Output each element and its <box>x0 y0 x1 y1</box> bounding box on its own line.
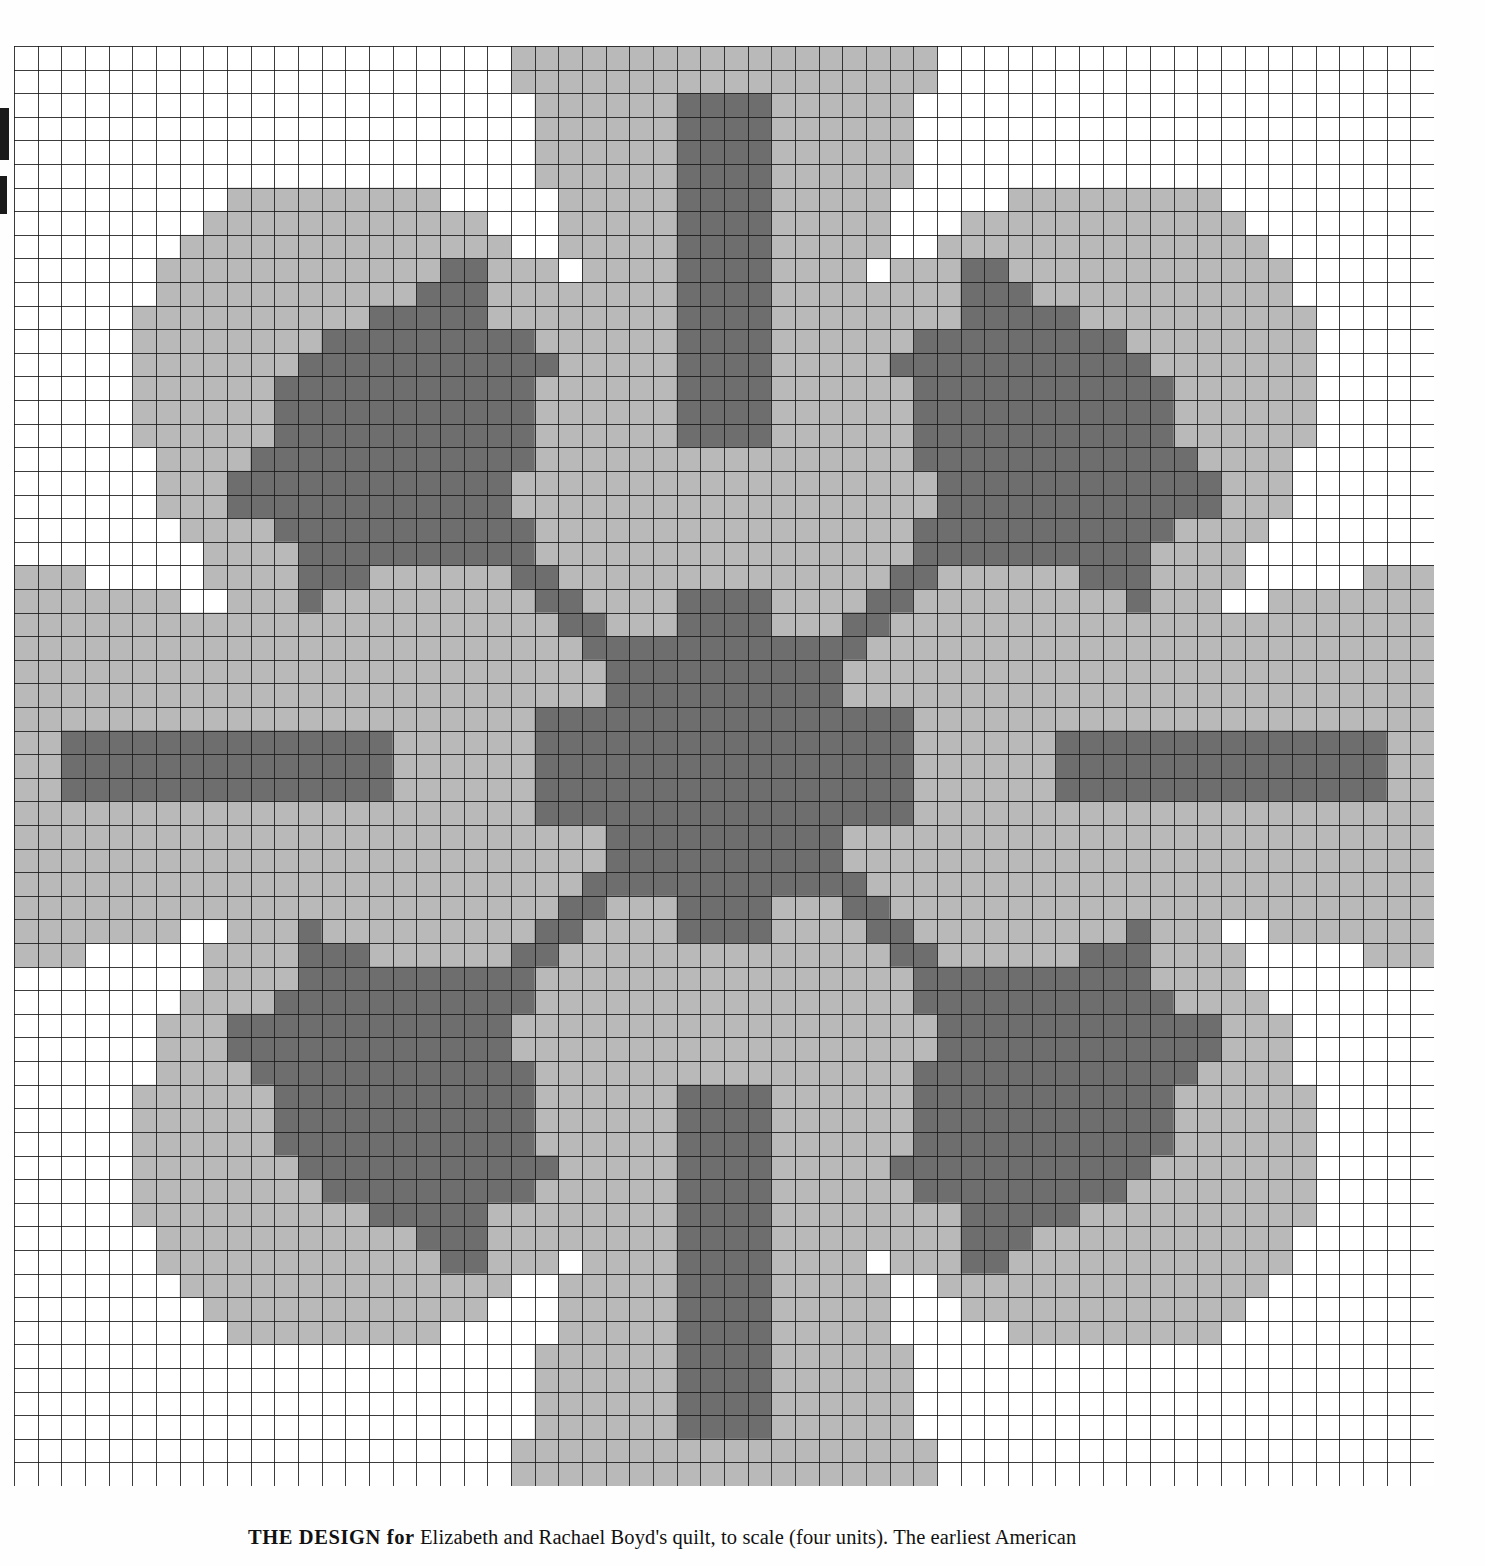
figure-caption: THE DESIGN for Elizabeth and Rachael Boy… <box>248 1524 1398 1550</box>
page-edge-smudge-upper-icon <box>0 108 9 160</box>
page-edge-smudge-lower-icon <box>0 176 7 214</box>
caption-label: THE DESIGN for <box>248 1526 415 1548</box>
page-canvas: THE DESIGN for Elizabeth and Rachael Boy… <box>0 0 1485 1566</box>
caption-text: Elizabeth and Rachael Boyd's quilt, to s… <box>420 1526 1076 1548</box>
quilt-pattern-grid-chart <box>14 46 1434 1486</box>
